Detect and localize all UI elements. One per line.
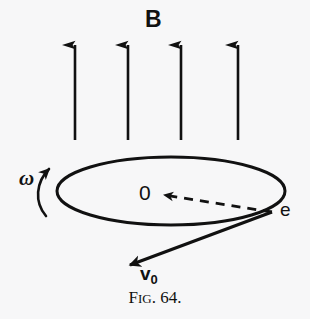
orbit-center-label: 0 [139, 182, 151, 203]
physics-figure: B ω 0 e v0 FIG. 64. [0, 0, 310, 319]
figure-caption: FIG. 64. [0, 288, 310, 308]
magnetic-field-label: B [145, 8, 162, 31]
velocity-label: v0 [140, 264, 158, 286]
caption-smallcaps: IG [138, 291, 152, 306]
magnetic-field-arrow-group [75, 45, 238, 140]
velocity-vector [130, 212, 272, 265]
orbit-ellipse [57, 157, 285, 225]
velocity-symbol: v [140, 263, 151, 284]
angular-velocity-label: ω [19, 168, 34, 189]
caption-number: . 64. [152, 288, 182, 307]
rotation-arc [38, 169, 49, 216]
caption-prefix: F [129, 288, 138, 307]
electron-label: e [280, 200, 291, 219]
velocity-subscript: 0 [151, 272, 158, 287]
radius-vector-dashed [164, 195, 272, 212]
